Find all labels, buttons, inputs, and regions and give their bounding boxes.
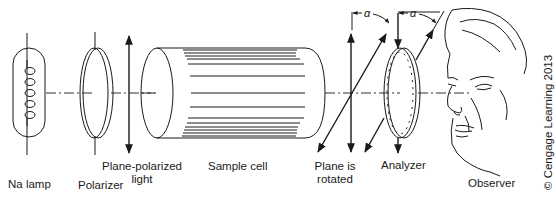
label-plane-rotated-line1: Plane is <box>315 160 356 172</box>
label-plane-polarized-line1: Plane-polarized <box>102 160 182 172</box>
na-lamp-icon <box>13 33 45 155</box>
copyright-text: © Cengage Learning 2013 <box>542 55 554 190</box>
svg-text:α: α <box>364 7 371 19</box>
label-plane-rotated-line2: rotated <box>317 173 353 185</box>
label-plane-polarized-line2: light <box>131 173 153 185</box>
polarizer-icon <box>80 32 113 155</box>
analyzer-icon <box>365 13 433 153</box>
label-na-lamp: Na lamp <box>8 178 51 190</box>
alpha-angle-marker-2: α <box>398 7 444 30</box>
observer-face-icon <box>445 8 527 176</box>
label-observer: Observer <box>468 177 515 189</box>
label-analyzer: Analyzer <box>381 159 426 171</box>
polarimeter-diagram: α α <box>0 0 556 203</box>
alpha-angle-marker-1: α <box>352 7 389 30</box>
svg-text:α: α <box>410 7 417 19</box>
label-polarizer: Polarizer <box>78 179 124 191</box>
sample-cell-icon <box>141 48 325 138</box>
label-sample-cell: Sample cell <box>208 160 267 172</box>
